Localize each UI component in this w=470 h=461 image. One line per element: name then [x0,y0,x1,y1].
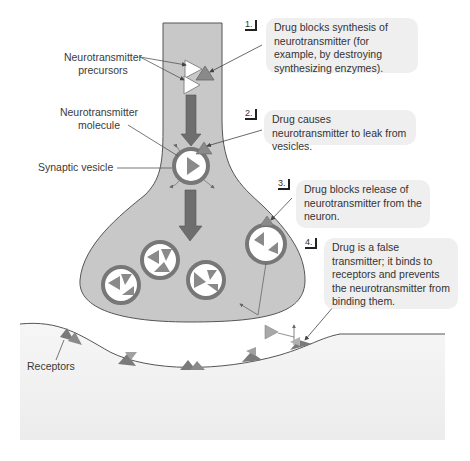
vesicle-2 [142,242,178,278]
label-precursors: Neurotransmitter precursors [60,51,146,77]
callout-3: Drug blocks release of neurotransmitter … [296,180,430,228]
label-molecule: Neurotransmitter molecule [56,106,142,132]
label-receptors: Receptors [27,360,75,373]
vesicle-1 [103,267,139,303]
label-precursors-line2: precursors [60,64,146,77]
label-molecule-line1: Neurotransmitter [56,106,142,119]
callout-2-number: 2. [245,108,257,120]
receptor-group-4 [242,347,262,362]
receptor-group-3 [180,360,205,370]
postsynaptic-neuron [20,323,445,440]
vesicle-3 [188,262,224,298]
label-precursors-line1: Neurotransmitter [60,51,146,64]
callout-3-number: 3. [278,178,290,190]
callout-2: Drug causes neurotransmitter to leak fro… [264,110,416,145]
label-molecule-line2: molecule [56,119,142,132]
false-transmitter [265,325,278,339]
callout-4-number: 4. [305,237,317,249]
callout-4-text: Drug is a false transmitter; it binds to… [332,241,450,307]
callout-3-text: Drug blocks release of neurotransmitter … [304,183,422,222]
callout-1-number: 1. [245,19,257,31]
callout-1: Drug blocks synthesis of neurotransmitte… [266,18,418,73]
callout-1-text: Drug blocks synthesis of neurotransmitte… [274,21,388,74]
label-synaptic-vesicle: Synaptic vesicle [38,161,113,174]
callout-4: Drug is a false transmitter; it binds to… [324,238,458,309]
